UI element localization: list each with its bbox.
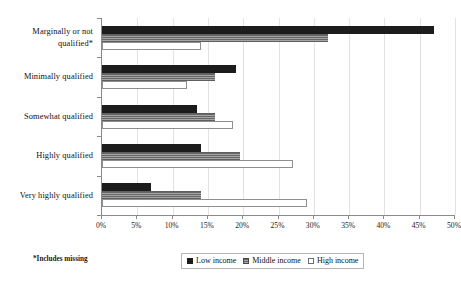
category-label: Minimally qualified <box>0 57 97 96</box>
value-axis-label: 20% <box>235 221 249 230</box>
tick-mark <box>278 215 279 219</box>
category-label: Marginally or not qualified* <box>0 18 97 57</box>
legend-item-middle-income: Middle income <box>243 256 301 265</box>
legend-label: Low income <box>196 256 236 265</box>
category-tick-mark <box>97 57 101 58</box>
bar <box>102 121 233 129</box>
bar <box>102 113 215 121</box>
bar <box>102 160 293 168</box>
bar <box>102 73 215 81</box>
legend-swatch-icon <box>308 258 314 264</box>
plot-canvas <box>101 18 455 216</box>
legend-item-high-income: High income <box>308 256 359 265</box>
tick-mark <box>348 215 349 219</box>
bar <box>102 199 307 207</box>
gridline <box>455 18 456 215</box>
value-axis-label: 50% <box>447 221 461 230</box>
value-axis-label: 35% <box>341 221 355 230</box>
bar-group <box>102 176 455 215</box>
bar <box>102 105 197 113</box>
bar <box>102 191 201 199</box>
tick-mark <box>172 215 173 219</box>
bar <box>102 144 201 152</box>
value-axis-labels: 0%5%10%15%20%25%30%35%40%45%50% <box>101 221 454 235</box>
value-axis-label: 45% <box>412 221 426 230</box>
tick-mark <box>136 215 137 219</box>
tick-mark <box>313 215 314 219</box>
bar <box>102 42 201 50</box>
bar <box>102 183 151 191</box>
footnote: *Includes missing <box>33 255 88 263</box>
category-label: Highly qualified <box>0 136 97 175</box>
tick-mark <box>419 215 420 219</box>
plot-area: Marginally or not qualified* Minimally q… <box>0 0 459 232</box>
tick-mark <box>207 215 208 219</box>
bar <box>102 81 187 89</box>
category-tick-mark <box>97 18 101 19</box>
category-tick-mark <box>97 97 101 98</box>
tick-mark <box>454 215 455 219</box>
value-axis-label: 0% <box>96 221 106 230</box>
bar <box>102 152 240 160</box>
legend-swatch-icon <box>243 258 249 264</box>
value-axis-label: 40% <box>376 221 390 230</box>
bar-group <box>102 57 455 96</box>
bar <box>102 34 328 42</box>
legend-label: Middle income <box>252 256 301 265</box>
value-axis-label: 10% <box>165 221 179 230</box>
bar <box>102 65 236 73</box>
bar-group <box>102 18 455 57</box>
category-tick-mark <box>97 136 101 137</box>
bar <box>102 26 434 34</box>
value-axis-label: 15% <box>200 221 214 230</box>
legend: Low income Middle income High income <box>181 253 364 269</box>
category-label: Very highly qualified <box>0 176 97 215</box>
value-axis-label: 25% <box>271 221 285 230</box>
legend-item-low-income: Low income <box>187 256 236 265</box>
category-tick-mark <box>97 176 101 177</box>
value-axis-label: 5% <box>131 221 141 230</box>
bar-group <box>102 97 455 136</box>
legend-swatch-icon <box>187 258 193 264</box>
bar-groups <box>102 18 455 215</box>
legend-label: High income <box>317 256 359 265</box>
category-label: Somewhat qualified <box>0 97 97 136</box>
value-axis-label: 30% <box>306 221 320 230</box>
category-axis-labels: Marginally or not qualified* Minimally q… <box>0 18 97 215</box>
tick-mark <box>101 215 102 219</box>
tick-mark <box>383 215 384 219</box>
bar-group <box>102 136 455 175</box>
tick-mark <box>242 215 243 219</box>
